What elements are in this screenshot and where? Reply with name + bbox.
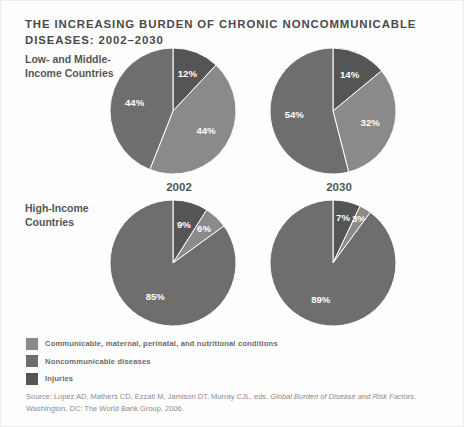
pie-slice-label: 7% [336,212,350,223]
pie-chart-high-2030: 7%3%89% [269,199,397,327]
pie-slice-label: 44% [125,97,145,108]
source-line1-italic: Global Burden of Disease and [270,392,370,401]
year-label-2002: 2002 [119,181,239,193]
pie-slice-label: 85% [146,291,166,302]
pie-svg: 9%6%85% [109,199,237,327]
source-line1-prefix: Source: Lopez AD, Mathers CD, Ezzati M, … [26,392,270,401]
legend-item-communicable: Communicable, maternal, perinatal, and n… [26,335,278,353]
source-line2-italic: Risk Factors [372,392,414,401]
legend-item-noncommunicable: Noncommunicable diseases [26,353,278,371]
pie-svg: 7%3%89% [269,199,397,327]
pie-svg: 12%44%44% [109,47,237,175]
source-note: Source: Lopez AD, Mathers CD, Ezzati M, … [26,391,441,414]
legend-swatch-icon [26,373,38,385]
pie-chart-low-middle-2002: 12%44%44% [109,47,237,175]
pie-slice-label: 89% [311,294,331,305]
legend-label: Communicable, maternal, perinatal, and n… [45,339,278,348]
pie-slice-label: 44% [196,125,216,136]
pie-slice-label: 9% [177,219,191,230]
pie-slice [270,200,396,326]
chart-title: THE INCREASING BURDEN OF CHRONIC NONCOMM… [25,17,435,48]
legend: Communicable, maternal, perinatal, and n… [26,335,278,388]
legend-label: Noncommunicable diseases [45,357,151,366]
legend-swatch-icon [26,338,38,350]
pie-chart-low-middle-2030: 14%32%54% [269,47,397,175]
pie-slice-label: 12% [178,68,198,79]
pie-slice-label: 32% [361,117,381,128]
pie-svg: 14%32%54% [269,47,397,175]
year-label-2030: 2030 [279,181,399,193]
row-label-high-income: High-Income Countries [25,202,120,229]
pie-slice-label: 6% [197,223,211,234]
row-label-low-middle-income: Low- and Middle-Income Countries [25,53,120,80]
legend-item-injuries: Injuries [26,370,278,388]
pie-slice-label: 54% [285,109,305,120]
legend-label: Injuries [45,374,73,383]
pie-slice-label: 14% [340,69,360,80]
chart-figure: THE INCREASING BURDEN OF CHRONIC NONCOMM… [0,0,464,427]
pie-chart-high-2002: 9%6%85% [109,199,237,327]
legend-swatch-icon [26,355,38,367]
